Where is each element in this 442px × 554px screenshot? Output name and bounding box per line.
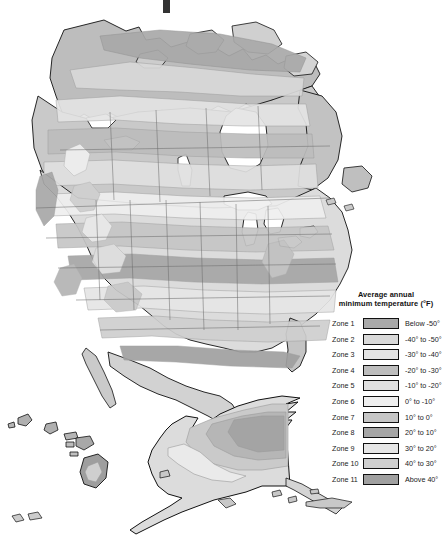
legend-range-label: 20° to 10° [405, 428, 437, 437]
legend-row[interactable]: Zone 820° to 10° [332, 425, 440, 441]
hawaii-kahoolawe [70, 452, 78, 456]
legend-zone-label: Zone 9 [332, 444, 363, 453]
kodiak-island [218, 498, 236, 508]
legend-color-swatch [363, 458, 399, 469]
alaska-inset[interactable] [12, 396, 342, 534]
legend-range-label: -10° to -20° [405, 381, 442, 390]
legend-rows: Zone 1Below -50°Zone 2-40° to -50°Zone 3… [332, 316, 440, 488]
legend-row[interactable]: Zone 1040° to 30° [332, 456, 440, 472]
legend-range-label: -20° to -30° [405, 366, 442, 375]
legend-range-label: 40° to 30° [405, 459, 437, 468]
legend-color-swatch [363, 365, 399, 376]
hawaii-lanai [66, 442, 74, 447]
legend-color-swatch [363, 334, 399, 345]
hawaii-inset[interactable] [8, 414, 108, 488]
legend-zone-label: Zone 2 [332, 335, 363, 344]
island-small-c [310, 489, 319, 494]
legend-color-swatch [363, 380, 399, 391]
zone-mottle-pacific-nw [36, 172, 58, 226]
legend-row[interactable]: Zone 710° to 0° [332, 409, 440, 425]
zone-band-11 [120, 346, 300, 368]
legend-row[interactable]: Zone 11Above 40° [332, 472, 440, 488]
legend-zone-label: Zone 7 [332, 413, 363, 422]
legend-row[interactable]: Zone 930° to 20° [332, 441, 440, 457]
map-layers [8, 20, 372, 534]
island-bahamas-b [288, 496, 297, 503]
aleutian-chain [12, 512, 42, 522]
legend-row[interactable]: Zone 4-20° to -30° [332, 363, 440, 379]
legend-range-label: -30° to -40° [405, 350, 442, 359]
hawaii-niihau [8, 422, 15, 428]
legend-title: Average annual minimum temperature (°F) [332, 290, 440, 309]
legend-zone-label: Zone 4 [332, 366, 363, 375]
legend-range-label: 0° to -10° [405, 397, 435, 406]
legend-zone-label: Zone 8 [332, 428, 363, 437]
legend-row[interactable]: Zone 3-30° to -40° [332, 347, 440, 363]
legend-color-swatch [363, 396, 399, 407]
legend-range-label: Above 40° [405, 475, 438, 484]
legend-row[interactable]: Zone 60° to -10° [332, 394, 440, 410]
island-bahamas-a [272, 490, 282, 497]
legend-color-swatch [363, 427, 399, 438]
map-legend: Average annual minimum temperature (°F) … [332, 290, 440, 487]
legend-zone-label: Zone 1 [332, 319, 363, 328]
legend-zone-label: Zone 5 [332, 381, 363, 390]
legend-title-line1: Average annual [358, 290, 414, 299]
legend-color-swatch [363, 474, 399, 485]
hawaii-maui [76, 436, 94, 450]
legend-row[interactable]: Zone 2-40° to -50° [332, 331, 440, 347]
legend-color-swatch [363, 443, 399, 454]
legend-color-swatch [363, 412, 399, 423]
legend-range-label: Below -50° [405, 319, 440, 328]
islet-b [344, 204, 354, 211]
legend-row[interactable]: Zone 5-10° to -20° [332, 378, 440, 394]
legend-zone-label: Zone 11 [332, 475, 363, 484]
hawaii-oahu [44, 422, 58, 434]
hawaii-kauai [18, 414, 32, 426]
legend-range-label: -40° to -50° [405, 335, 442, 344]
legend-color-swatch [363, 318, 399, 329]
legend-title-line2: minimum temperature (°F) [332, 299, 440, 308]
legend-color-swatch [363, 349, 399, 360]
legend-zone-label: Zone 3 [332, 350, 363, 359]
legend-row[interactable]: Zone 1Below -50° [332, 316, 440, 332]
hardiness-zone-figure: Average annual minimum temperature (°F) … [0, 0, 442, 554]
land-newfoundland [342, 166, 372, 192]
legend-zone-label: Zone 6 [332, 397, 363, 406]
legend-range-label: 10° to 0° [405, 413, 433, 422]
legend-zone-label: Zone 10 [332, 459, 363, 468]
legend-range-label: 30° to 20° [405, 444, 437, 453]
